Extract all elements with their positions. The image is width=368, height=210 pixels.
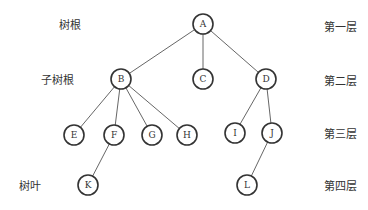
edge-B-F [115,89,120,125]
edge-A-B [129,30,194,74]
edge-F-K [93,144,110,176]
tree-node-J: J [262,123,282,143]
edge-D-J [267,89,271,123]
edge-D-I [240,88,261,125]
level-label-4: 第四层 [324,177,357,193]
label-subtree-root: 子树根 [41,71,74,87]
level-label-2: 第二层 [324,72,357,88]
edge-B-G [126,88,147,127]
tree-node-H: H [177,125,197,145]
tree-node-G: G [142,125,162,145]
node-label: G [148,130,155,140]
tree-node-F: F [104,125,124,145]
tree-node-C: C [193,69,213,89]
node-label: J [269,128,274,138]
node-label: C [200,74,207,84]
label-tree-root: 树根 [59,16,81,32]
label-tree-leaf: 树叶 [19,177,41,193]
tree-node-B: B [111,69,131,89]
edge-B-E [80,87,114,128]
node-label: F [111,130,117,140]
node-label: E [71,130,78,140]
level-label-1: 第一层 [324,18,357,34]
node-label: A [199,19,207,29]
tree-diagram: ABCDEFGHIJKL 树根 子树根 树叶 第一层 第二层 第三层 第四层 [0,0,368,210]
node-label: D [262,74,269,84]
tree-node-L: L [237,175,257,195]
node-label: B [118,74,125,84]
tree-node-K: K [78,175,98,195]
edge-A-D [211,31,259,73]
node-label: H [183,130,191,140]
tree-graphic: ABCDEFGHIJKL [0,0,368,210]
tree-node-E: E [64,125,84,145]
node-label: I [233,128,237,138]
edges [80,30,270,177]
level-label-3: 第三层 [324,125,357,141]
tree-node-A: A [193,14,213,34]
tree-node-I: I [225,123,245,143]
edge-J-L [251,142,267,176]
node-label: K [85,180,92,190]
node-label: L [244,180,250,190]
tree-node-D: D [256,69,276,89]
